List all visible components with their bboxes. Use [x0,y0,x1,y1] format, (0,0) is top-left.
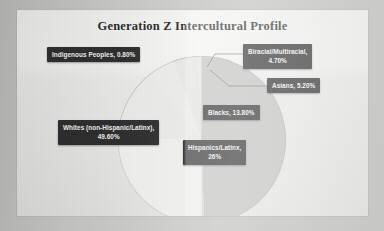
pie-label-whites-text: Whites (non-Hispanic/Latinx), [63,124,154,131]
page-title: Generation Z Intercultural Profile [17,19,368,34]
photograph-of-projected-slide: Generation Z Intercultural Profile Indig… [0,0,384,231]
pie-label-asians: Asians, 5.20% [267,78,320,93]
pie-label-hispanics-latinx-value: 26% [188,152,241,161]
pie-label-whites-value: 49.60% [63,132,154,141]
pie-label-hispanics-latinx: Hispanics/Latinx, 26% [183,140,246,165]
pie-label-asians-text: Asians, 5.20% [272,82,315,89]
pie-label-biracial-multiracial-value: 4.70% [248,56,307,65]
pie-label-blacks: Blacks, 13.80% [203,105,260,120]
pie-label-whites: Whites (non-Hispanic/Latinx), 49.60% [58,120,159,145]
pie-label-biracial-multiracial-text: Biracial/Multiracial, [248,48,307,55]
pie-label-blacks-text: Blacks, 13.80% [208,109,255,116]
presentation-slide: Generation Z Intercultural Profile Indig… [17,10,368,216]
pie-label-indigenous-peoples-text: Indigenous Peoples, 0.80% [52,51,135,58]
pie-label-hispanics-latinx-text: Hispanics/Latinx, [188,144,241,151]
pie-label-indigenous-peoples: Indigenous Peoples, 0.80% [47,47,140,62]
pie-label-biracial-multiracial: Biracial/Multiracial, 4.70% [243,44,312,69]
